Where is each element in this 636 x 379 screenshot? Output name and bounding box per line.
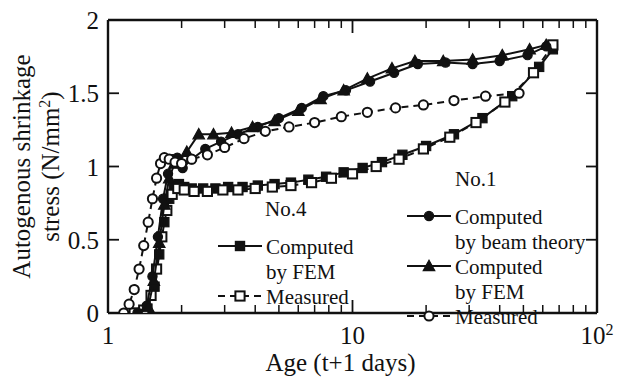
series-marker xyxy=(391,103,400,112)
legend-no1-entry-label2: by beam theory xyxy=(455,230,586,254)
y-tick-label: 2 xyxy=(87,7,100,34)
series-marker xyxy=(233,185,242,194)
series-marker xyxy=(419,144,428,153)
series-marker xyxy=(307,178,316,187)
series-marker xyxy=(125,300,134,309)
series-marker xyxy=(180,185,189,194)
legend-marker-square-open xyxy=(235,291,244,300)
legend-no4-entry-label2: by FEM xyxy=(266,260,336,284)
series-marker xyxy=(471,118,480,127)
legend-group-no1: No.1Computedby beam theoryComputedby FEM… xyxy=(407,167,586,329)
legend-no1-entry-label: Measured xyxy=(455,305,538,329)
series-marker xyxy=(144,218,153,227)
series-marker xyxy=(261,127,270,136)
series-marker xyxy=(187,155,196,164)
series-marker xyxy=(481,92,490,101)
series-marker xyxy=(419,100,428,109)
series-marker xyxy=(220,143,229,152)
legend-marker-circle-filled xyxy=(424,211,433,220)
legend-no1-entry-label: Computed xyxy=(455,205,543,229)
series-marker xyxy=(514,89,523,98)
legend-no4-entry-label: Computed xyxy=(266,235,354,259)
legend-no1-entry-label: Computed xyxy=(455,255,543,279)
legend-marker-square-filled xyxy=(235,241,244,250)
series-marker xyxy=(449,96,458,105)
y-axis-title-line2: stress (N/mm2) xyxy=(36,91,65,241)
series-marker xyxy=(500,97,509,106)
series-marker xyxy=(268,182,277,191)
y-axis-title: Autogenous shrinkage xyxy=(8,54,35,278)
series-marker xyxy=(337,112,346,121)
y-tick-label: 0 xyxy=(87,300,100,327)
y-axis-title-line2-group: stress (N/mm2) xyxy=(36,91,65,241)
series-marker xyxy=(134,264,143,273)
legend-no1-entry-label2: by FEM xyxy=(455,280,525,304)
series-marker xyxy=(119,308,128,317)
legend-no4-entry-label: Measured xyxy=(266,285,349,309)
legend-group-no4: No.4Computedby FEMMeasured xyxy=(218,197,354,309)
series-marker xyxy=(139,241,148,250)
series-marker xyxy=(445,133,454,142)
series-marker xyxy=(394,155,403,164)
series-marker xyxy=(372,162,381,171)
x-tick-label: 102 xyxy=(581,321,614,349)
legend-no4-title: No.4 xyxy=(265,197,307,221)
series-marker xyxy=(148,194,157,203)
legend-marker-circle-open xyxy=(424,311,433,320)
chart-figure: 00.511.52110102Age (t+1 days)Autogenous … xyxy=(0,0,636,379)
series-marker xyxy=(348,169,357,178)
series-marker xyxy=(130,285,139,294)
series-marker xyxy=(251,184,260,193)
series-marker xyxy=(327,174,336,183)
series-marker xyxy=(286,181,295,190)
series-marker xyxy=(529,68,538,77)
x-tick-label: 10 xyxy=(340,322,365,349)
series-marker xyxy=(203,187,212,196)
series-marker xyxy=(239,134,248,143)
series-marker xyxy=(310,118,319,127)
y-tick-label: 0.5 xyxy=(68,227,99,254)
series-marker xyxy=(284,122,293,131)
series-marker xyxy=(203,150,212,159)
chart-canvas: 00.511.52110102Age (t+1 days)Autogenous … xyxy=(0,0,636,379)
series-marker xyxy=(190,187,199,196)
x-tick-label: 1 xyxy=(102,322,115,349)
y-axis-title-line1: Autogenous shrinkage xyxy=(8,54,35,278)
legend-no1-title: No.1 xyxy=(455,167,496,191)
x-axis-title: Age (t+1 days) xyxy=(265,349,415,377)
y-tick-label: 1.5 xyxy=(68,80,99,107)
series-marker xyxy=(218,185,227,194)
series-marker xyxy=(177,159,186,168)
series-marker xyxy=(152,174,161,183)
y-tick-label: 1 xyxy=(87,154,100,181)
series-marker xyxy=(363,108,372,117)
